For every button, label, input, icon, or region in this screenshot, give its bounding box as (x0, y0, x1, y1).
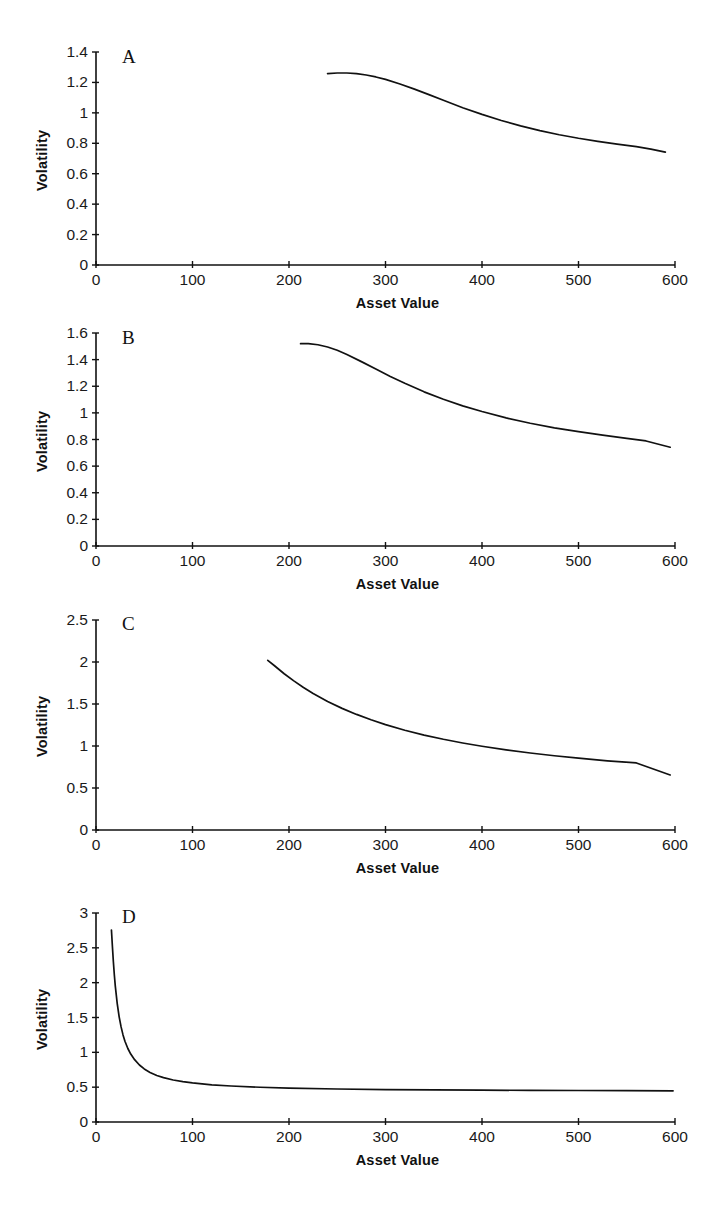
y-tick-label: 0 (79, 256, 88, 274)
figure-page: A00.20.40.60.811.21.40100200300400500600… (0, 0, 714, 1206)
x-tick-label: 300 (373, 552, 399, 570)
x-tick-label: 100 (180, 1128, 206, 1146)
y-tick-label: 0.4 (66, 484, 88, 502)
y-axis-title: Volatility (34, 988, 50, 1049)
y-tick-label: 1 (79, 737, 88, 755)
x-tick-label: 600 (662, 552, 688, 570)
y-tick-label: 0.4 (66, 195, 88, 213)
running-head (0, 0, 714, 7)
x-tick-label: 500 (566, 271, 592, 289)
data-series-line (111, 930, 673, 1091)
x-tick-label: 0 (92, 1128, 101, 1146)
y-tick-label: 1.2 (66, 377, 88, 395)
y-tick-label: 0.5 (66, 779, 88, 797)
y-tick-label: 1 (79, 404, 88, 422)
x-tick-label: 400 (469, 271, 495, 289)
y-axis-title: Volatility (34, 410, 50, 471)
y-tick-label: 0.5 (66, 1078, 88, 1096)
x-tick-label: 200 (276, 1128, 302, 1146)
y-tick-label: 0 (79, 821, 88, 839)
data-series-line (328, 73, 666, 152)
y-tick-label: 1.4 (66, 43, 88, 61)
y-tick-label: 2.5 (66, 939, 88, 957)
panel-letter-b: B (122, 327, 135, 349)
y-tick-label: 1.5 (66, 1009, 88, 1027)
x-tick-label: 400 (469, 836, 495, 854)
x-axis-title: Asset Value (356, 1152, 440, 1168)
panel-letter-c: C (122, 613, 135, 635)
x-tick-label: 100 (180, 271, 206, 289)
y-tick-label: 2 (79, 974, 88, 992)
y-tick-label: 1 (79, 1043, 88, 1061)
x-tick-label: 600 (662, 271, 688, 289)
chart-panel-b: B00.20.40.60.811.21.41.60100200300400500… (0, 310, 714, 616)
chart-panel-a: A00.20.40.60.811.21.40100200300400500600… (0, 30, 714, 335)
y-tick-label: 3 (79, 904, 88, 922)
y-tick-label: 2.5 (66, 611, 88, 629)
y-axis-title: Volatility (34, 696, 50, 757)
y-tick-label: 0.8 (66, 134, 88, 152)
panel-letter-d: D (122, 906, 136, 928)
data-series-line (301, 344, 671, 448)
y-tick-label: 0 (79, 537, 88, 555)
y-tick-label: 1.6 (66, 324, 88, 342)
x-tick-label: 300 (373, 271, 399, 289)
panel-letter-a: A (122, 46, 136, 68)
x-tick-label: 300 (373, 836, 399, 854)
x-tick-label: 500 (566, 552, 592, 570)
plot-canvas-c (0, 590, 714, 900)
x-tick-label: 400 (469, 552, 495, 570)
plot-canvas-a (0, 30, 714, 335)
x-tick-label: 500 (566, 836, 592, 854)
x-tick-label: 0 (92, 552, 101, 570)
plot-canvas-b (0, 310, 714, 616)
y-tick-label: 2 (79, 653, 88, 671)
y-tick-label: 0.2 (66, 510, 88, 528)
x-axis-title: Asset Value (356, 860, 440, 876)
chart-panel-c: C00.511.522.50100200300400500600Asset Va… (0, 590, 714, 900)
y-tick-label: 0.2 (66, 226, 88, 244)
y-tick-label: 0.6 (66, 165, 88, 183)
x-tick-label: 200 (276, 271, 302, 289)
x-tick-label: 0 (92, 271, 101, 289)
x-tick-label: 0 (92, 836, 101, 854)
x-tick-label: 500 (566, 1128, 592, 1146)
x-tick-label: 600 (662, 1128, 688, 1146)
x-axis-title: Asset Value (356, 295, 440, 311)
x-tick-label: 400 (469, 1128, 495, 1146)
x-tick-label: 600 (662, 836, 688, 854)
y-tick-label: 1.5 (66, 695, 88, 713)
y-tick-label: 0.8 (66, 431, 88, 449)
x-tick-label: 200 (276, 552, 302, 570)
x-tick-label: 100 (180, 552, 206, 570)
data-series-line (268, 660, 670, 775)
y-axis-title: Volatility (34, 129, 50, 190)
y-tick-label: 1 (79, 104, 88, 122)
chart-panel-d: D00.511.522.530100200300400500600Asset V… (0, 880, 714, 1192)
y-tick-label: 1.2 (66, 73, 88, 91)
x-tick-label: 300 (373, 1128, 399, 1146)
x-tick-label: 200 (276, 836, 302, 854)
plot-canvas-d (0, 880, 714, 1192)
y-tick-label: 0 (79, 1113, 88, 1131)
y-tick-label: 0.6 (66, 457, 88, 475)
y-tick-label: 1.4 (66, 351, 88, 369)
x-tick-label: 100 (180, 836, 206, 854)
